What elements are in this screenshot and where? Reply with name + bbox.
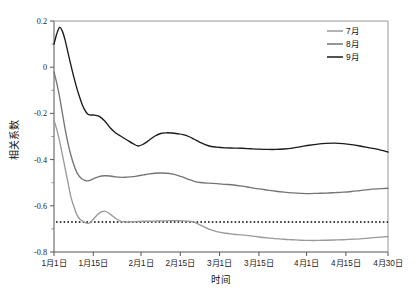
x-axis-title: 时间 (211, 274, 231, 285)
x-axis-tick-labels: 1月1日1月15日2月1日2月15日3月1日3月15日4月1日4月15日4月30… (41, 259, 402, 268)
y-tick-label: 0 (43, 63, 47, 72)
x-tick-label: 1月1日 (41, 259, 66, 268)
correlation-coefficient-line-chart: 0.20-0.2-0.4-0.6-0.8 1月1日1月15日2月1日2月15日3… (0, 0, 418, 305)
x-tick-label: 4月1日 (294, 259, 319, 268)
x-tick-label: 4月30日 (373, 259, 403, 268)
legend-label-7月: 7月 (346, 26, 359, 36)
x-tick-label: 4月15日 (331, 259, 361, 268)
y-tick-label: 0.2 (37, 17, 47, 26)
x-tick-label: 1月15日 (78, 259, 108, 268)
legend-label-8月: 8月 (346, 39, 359, 49)
y-tick-label: -0.6 (34, 202, 47, 211)
x-tick-label: 3月1日 (207, 259, 232, 268)
y-tick-label: -0.2 (34, 109, 47, 118)
x-tick-label: 2月15日 (165, 259, 195, 268)
x-tick-label: 3月15日 (244, 259, 274, 268)
legend: 7月8月9月 (327, 26, 359, 62)
legend-label-9月: 9月 (346, 52, 359, 62)
x-tick-label: 2月1日 (128, 259, 153, 268)
y-tick-label: -0.8 (34, 248, 47, 257)
y-tick-label: -0.4 (34, 156, 47, 165)
y-axis-title: 相关系数 (8, 120, 20, 160)
